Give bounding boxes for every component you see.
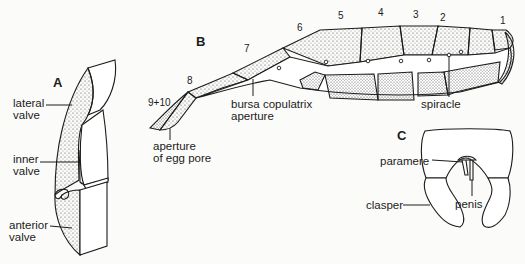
panel-label-a: A [53, 77, 62, 89]
label-clasper: clasper [366, 199, 403, 211]
panel-a-drawing [55, 60, 116, 255]
label-anterior-valve: anterior valve [9, 219, 48, 243]
segment-number-7: 7 [244, 43, 250, 55]
label-paramere: paramere [380, 155, 429, 167]
segment-number-8: 8 [187, 75, 193, 87]
label-bursa-copulatrix-aperture: bursa copulatrix aperture [231, 98, 312, 122]
segment-number-2: 2 [440, 12, 446, 24]
label-penis: penis [455, 198, 483, 210]
label-inner-valve: inner valve [13, 153, 40, 177]
segment-number-6: 6 [297, 22, 303, 34]
segment-number-3: 3 [413, 9, 419, 21]
label-spiracle: spiracle [421, 98, 461, 110]
figure-insect-genitalia: A B C lateral valve inner valve anterior… [0, 0, 525, 264]
panel-label-b: B [196, 36, 205, 48]
segment-number-9-10: 9+10 [148, 97, 171, 109]
segment-number-1: 1 [500, 15, 506, 27]
diagram-drawing [0, 0, 525, 264]
label-aperture-of-egg-pore: aperture of egg pore [153, 140, 211, 164]
segment-number-5: 5 [338, 10, 344, 22]
label-lateral-valve: lateral valve [13, 97, 44, 121]
panel-label-c: C [397, 130, 406, 142]
segment-number-4: 4 [378, 7, 384, 19]
panel-c-drawing [421, 129, 512, 228]
